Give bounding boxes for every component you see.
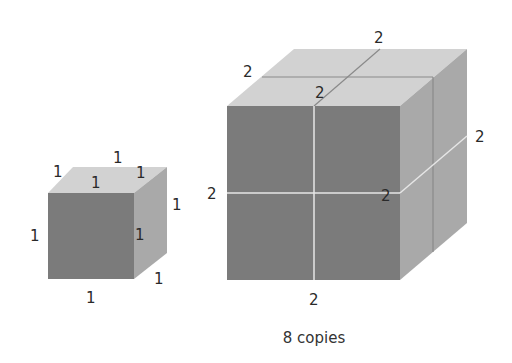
large-label-front-bottom: 2 — [309, 291, 319, 309]
large-label-top-front: 2 — [315, 84, 325, 102]
small-label-right-bottom: 1 — [154, 270, 164, 288]
large-label-front-right: 2 — [381, 187, 391, 205]
large-label-right-back: 2 — [475, 128, 485, 146]
large-label-front-left: 2 — [207, 185, 217, 203]
small-cube — [48, 167, 167, 279]
small-label-right-back: 1 — [172, 196, 182, 214]
small-cube-front-face — [48, 193, 134, 279]
small-label-front-right: 1 — [135, 226, 145, 244]
large-label-top-back: 2 — [374, 29, 384, 47]
small-label-front-bottom: 1 — [86, 289, 96, 307]
small-label-top-left: 1 — [53, 163, 63, 181]
large-label-top-left: 2 — [243, 63, 253, 81]
caption: 8 copies — [283, 329, 346, 347]
small-label-front-left: 1 — [30, 227, 40, 245]
cube-scaling-diagram: 1 1 1 1 1 1 1 1 1 2 2 2 2 2 2 2 8 copies — [0, 0, 512, 363]
large-cube — [227, 49, 467, 280]
small-label-top-right: 1 — [136, 164, 146, 182]
diagram-canvas: 1 1 1 1 1 1 1 1 1 2 2 2 2 2 2 2 8 copies — [0, 0, 512, 363]
small-label-top-front: 1 — [91, 174, 101, 192]
small-label-top-back: 1 — [113, 149, 123, 167]
